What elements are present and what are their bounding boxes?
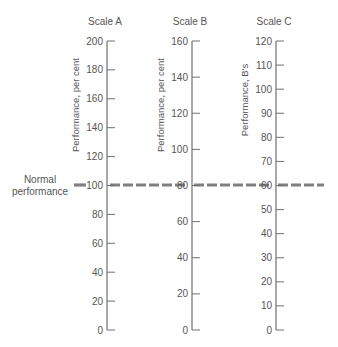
tick-label: 20: [177, 288, 189, 299]
normal-performance-label: Normal performance: [12, 174, 69, 197]
tick-label: 100: [255, 84, 272, 95]
tick-label: 100: [171, 144, 188, 155]
tick-label: 70: [261, 156, 273, 167]
tick-label: 40: [177, 252, 189, 263]
scale-title: Scale B: [173, 16, 208, 27]
normal-label-line1: Normal: [24, 174, 56, 185]
tick-label: 60: [261, 180, 273, 191]
tick-label: 20: [92, 296, 104, 307]
tick-label: 80: [261, 132, 273, 143]
performance-scales-diagram: Normal performance Scale A02040608010012…: [0, 0, 338, 347]
tick-label: 140: [171, 72, 188, 83]
tick-label: 120: [255, 36, 272, 47]
tick-label: 80: [177, 180, 189, 191]
tick-label: 160: [86, 93, 103, 104]
normal-label-line2: performance: [12, 186, 69, 197]
tick-label: 80: [92, 209, 104, 220]
tick-label: 160: [171, 36, 188, 47]
scale-b: Scale B020406080100120140160Performance,…: [155, 16, 208, 336]
tick-label: 0: [182, 325, 188, 336]
scale-title: Scale C: [256, 16, 291, 27]
tick-label: 140: [86, 122, 103, 133]
tick-label: 50: [261, 204, 273, 215]
tick-label: 200: [86, 36, 103, 47]
tick-label: 60: [92, 238, 104, 249]
tick-label: 90: [261, 108, 273, 119]
axis-label: Performance, B's: [239, 63, 250, 136]
scale-a: Scale A020406080100120140160180200Perfor…: [70, 16, 122, 336]
tick-label: 0: [266, 325, 272, 336]
axis-label: Performance, per cent: [155, 58, 166, 152]
tick-label: 110: [256, 60, 272, 71]
axis-label: Performance, per cent: [70, 58, 81, 152]
tick-label: 180: [86, 64, 103, 75]
tick-label: 20: [261, 276, 273, 287]
scales: Scale A020406080100120140160180200Perfor…: [70, 16, 292, 336]
tick-label: 0: [97, 325, 103, 336]
tick-label: 40: [261, 228, 273, 239]
scale-title: Scale A: [88, 16, 122, 27]
tick-label: 10: [261, 300, 273, 311]
scale-c: Scale C0102030405060708090100110120Perfo…: [239, 16, 292, 336]
tick-label: 100: [86, 180, 103, 191]
tick-label: 40: [92, 267, 104, 278]
tick-label: 120: [171, 108, 188, 119]
tick-label: 30: [261, 252, 273, 263]
tick-label: 120: [86, 151, 103, 162]
tick-label: 60: [177, 216, 189, 227]
